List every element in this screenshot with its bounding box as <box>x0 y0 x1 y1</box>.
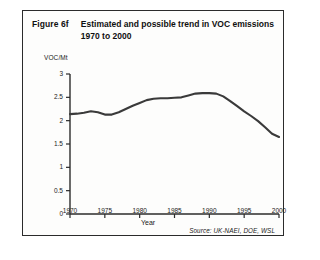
y-tick-label: 2 <box>45 117 63 124</box>
data-series-line <box>70 93 279 137</box>
y-tick-label: 1 <box>45 163 63 170</box>
x-tick-label: 1990 <box>196 207 222 214</box>
figure-card: Figure 6f Estimated and possible trend i… <box>22 10 284 236</box>
y-tick-label: 0.5 <box>45 187 63 194</box>
x-tick-label: 1985 <box>162 207 188 214</box>
x-tick-label: 2000 <box>266 207 292 214</box>
y-tick-label: 1.5 <box>45 140 63 147</box>
x-tick-label: 1995 <box>231 207 257 214</box>
chart-plot-area: VOC/Mt Year Source: UK-NAEI, DOE, WSL 00… <box>23 11 285 237</box>
y-tick-label: 2.5 <box>45 93 63 100</box>
chart-axes <box>70 74 279 214</box>
x-tick-label: 1980 <box>127 207 153 214</box>
x-tick-label: 1970 <box>57 207 83 214</box>
chart-tick-marks <box>66 74 279 218</box>
y-tick-label: 3 <box>45 70 63 77</box>
x-tick-label: 1975 <box>92 207 118 214</box>
line-chart-svg <box>23 11 285 237</box>
